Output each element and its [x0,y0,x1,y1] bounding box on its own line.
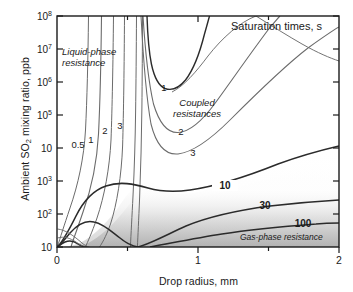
annotation-coupled-resistances: Coupledresistances [152,98,242,119]
plot-title: Saturation times, s [231,20,322,32]
contour-plot-figure: 108 107 106 105 10 103 102 10 0 1 2 Ambi… [0,0,353,292]
y-tick-label-10: 10 [18,241,52,253]
x-tick-label-2: 2 [328,255,350,267]
contour-label-gas-100: 100 [288,218,318,229]
contour-label-gas-30: 30 [252,200,278,211]
contour-label-coupled-2: 2 [172,127,190,138]
contour-label-coupled-3: 3 [184,148,202,159]
contour-label-liquid-3: 3 [111,121,129,132]
plot-canvas [0,0,353,292]
annotation-gas-phase-resistance: Gas-phase resistance [240,233,323,243]
x-axis-title-wrapper: Drop radius, mm [57,271,340,289]
x-axis-ticks [57,247,339,253]
contour-label-coupled-1: 1 [155,83,173,94]
contour-label-gas-10: 10 [212,180,238,191]
x-axis-title: Drop radius, mm [159,275,238,287]
y-axis-title: Ambient SO2 mixing ratio, ppb [19,57,31,201]
x-tick-label-0: 0 [46,255,68,267]
y-axis-title-wrapper: Ambient SO2 mixing ratio, ppb [15,19,33,239]
x-tick-label-1: 1 [187,255,209,267]
annotation-liquid-phase-resistance: Liquid-phaseresistance [62,47,116,68]
